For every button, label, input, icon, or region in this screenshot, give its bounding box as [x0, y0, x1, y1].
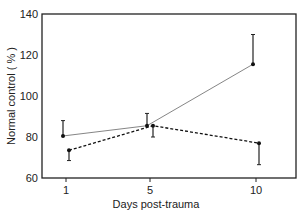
y-axis-label: Normal control ( % ): [5, 47, 17, 145]
y-tick-label: 60: [26, 172, 38, 184]
plot-frame: [42, 14, 296, 178]
data-point-dashed: [151, 124, 155, 128]
data-point-dashed: [257, 141, 261, 145]
y-tick-label: 80: [26, 131, 38, 143]
x-axis-label: Days post-trauma: [113, 198, 201, 210]
x-tick-label: 10: [250, 184, 262, 196]
y-tick-label: 120: [20, 49, 38, 61]
y-tick-label: 100: [20, 90, 38, 102]
chart: 6080100120140 1510 Days post-trauma Norm…: [0, 0, 305, 217]
data-point-dashed: [67, 148, 71, 152]
data-point-solid: [251, 62, 255, 66]
x-tick-label: 1: [63, 184, 69, 196]
x-tick-label: 5: [147, 184, 153, 196]
series-line-solid: [63, 64, 253, 136]
y-tick-label: 140: [20, 8, 38, 20]
data-point-solid: [61, 134, 65, 138]
series-line-dashed: [69, 126, 259, 151]
